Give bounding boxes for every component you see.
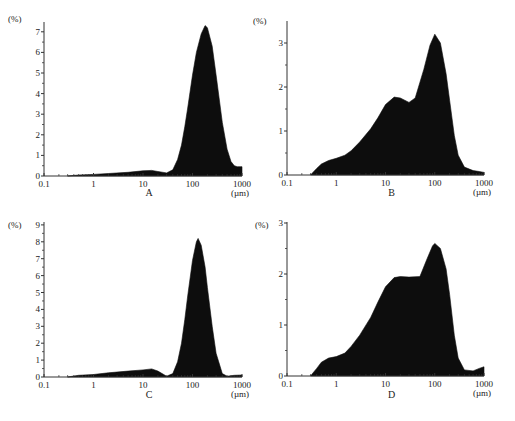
y-tick-label: 3 [36, 109, 41, 119]
x-tick-label: 0.1 [38, 380, 49, 390]
y-tick-label: 5 [36, 68, 41, 78]
x-tick-label: 100 [428, 379, 442, 389]
y-axis-unit-label: (%) [253, 16, 267, 26]
y-tick-label: 3 [279, 38, 284, 48]
y-tick-label: 4 [36, 89, 41, 99]
x-tick-label: 0.1 [38, 179, 49, 189]
x-tick-label: 0.1 [281, 178, 292, 188]
x-axis-unit-label: (µm) [231, 389, 249, 399]
panel-caption: B [388, 187, 395, 198]
figure-canvas: 012345670.11101001000(%)(µm)A 01230.1110… [0, 0, 515, 421]
distribution-area [68, 26, 242, 176]
y-tick-label: 6 [36, 271, 41, 281]
panel-a: 012345670.11101001000(%)(µm)A [8, 14, 252, 198]
y-tick-label: 1 [36, 150, 41, 160]
y-tick-label: 2 [279, 82, 284, 92]
y-axis-unit-label: (%) [8, 220, 22, 230]
y-tick-label: 3 [279, 218, 284, 228]
x-tick-label: 1 [91, 179, 96, 189]
x-tick-label: 0.1 [281, 379, 292, 389]
y-tick-label: 4 [36, 304, 41, 314]
x-tick-label: 10 [381, 379, 391, 389]
y-tick-label: 1 [279, 320, 284, 330]
x-axis-unit-label: (µm) [473, 187, 491, 197]
y-tick-label: 1 [279, 126, 284, 136]
y-tick-label: 7 [36, 27, 41, 37]
y-tick-label: 2 [279, 269, 284, 279]
x-axis-unit-label: (µm) [231, 188, 249, 198]
panel-caption: A [145, 187, 153, 198]
panel-b: 01230.11101001000(%)(µm)B [253, 16, 494, 198]
y-tick-label: 2 [36, 130, 41, 140]
y-tick-label: 7 [36, 254, 41, 264]
x-tick-label: 1 [334, 178, 339, 188]
x-tick-label: 1 [91, 380, 96, 390]
y-tick-label: 8 [36, 237, 41, 247]
y-axis-unit-label: (%) [8, 14, 22, 24]
panel-caption: C [146, 389, 153, 400]
y-tick-label: 9 [36, 220, 41, 230]
panel-d: 01230.11101001000(%)(µm)D [255, 218, 494, 400]
y-tick-label: 5 [36, 288, 41, 298]
x-tick-label: 100 [428, 178, 442, 188]
y-tick-label: 3 [36, 321, 41, 331]
panel-caption: D [388, 389, 395, 400]
y-tick-label: 2 [36, 338, 41, 348]
y-tick-label: 1 [36, 355, 41, 365]
x-tick-label: 100 [186, 179, 200, 189]
y-tick-label: 6 [36, 47, 41, 57]
distribution-area [311, 34, 485, 175]
panel-c: 01234567890.11101001000(%)(µm)C [8, 220, 252, 400]
x-axis-unit-label: (µm) [473, 388, 491, 398]
distribution-area [311, 243, 485, 376]
x-tick-label: 100 [186, 380, 200, 390]
x-tick-label: 1 [334, 379, 339, 389]
distribution-area [68, 238, 242, 377]
y-axis-unit-label: (%) [255, 220, 269, 230]
